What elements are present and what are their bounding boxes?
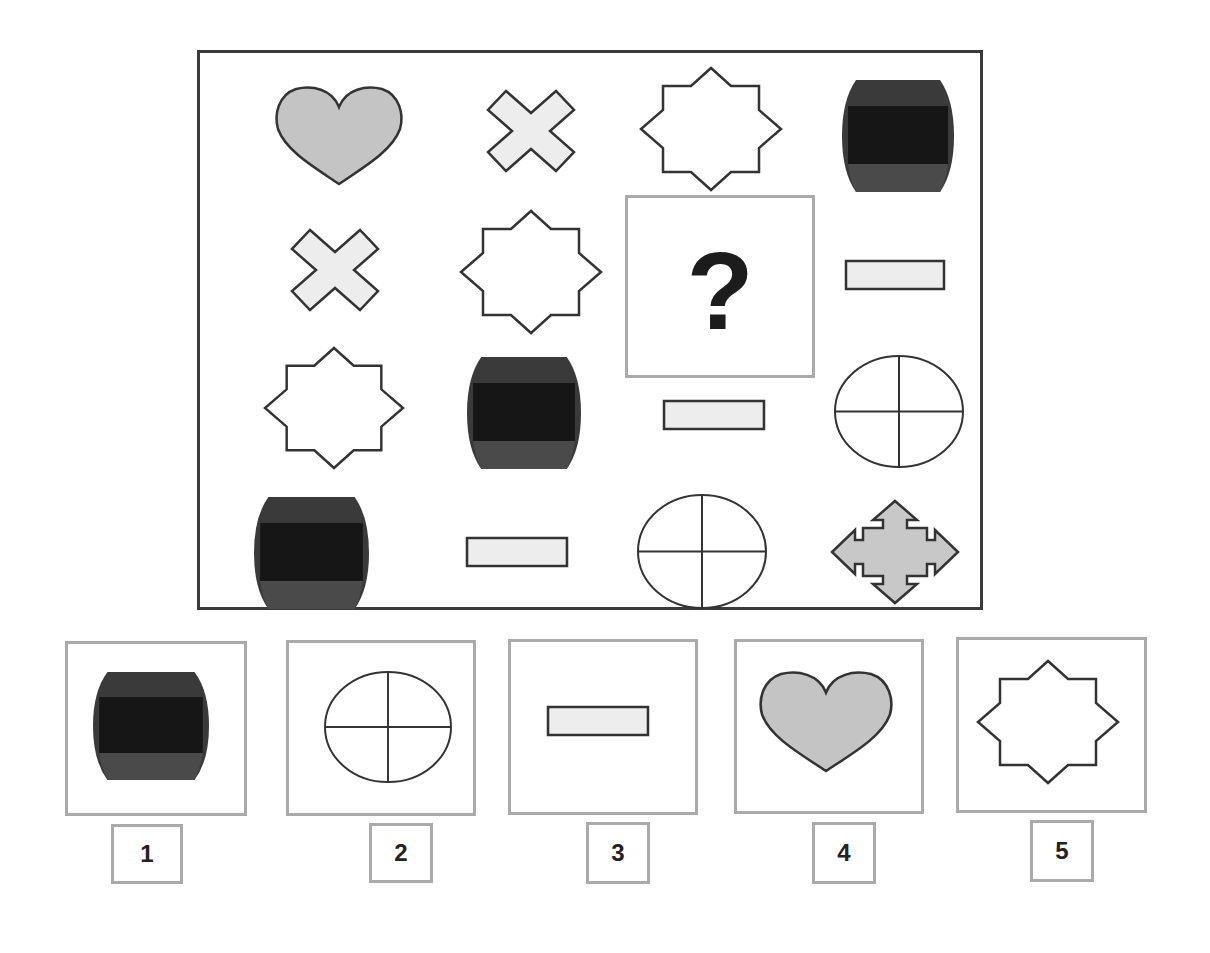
grid-cell-r4c2-rect-icon [466, 537, 568, 567]
grid-cell-r2c4-rect-icon [845, 260, 945, 290]
missing-cell-question: ? [625, 195, 815, 378]
grid-cell-r4c1-barrel-icon [254, 497, 369, 609]
grid-cell-r1c2-cross-icon [487, 91, 575, 171]
grid-cell-r4c4-arrows4-icon [831, 500, 959, 604]
option-1-barrel-icon [93, 672, 209, 780]
grid-cell-r2c2-star8-icon [461, 211, 601, 333]
option-2-circle4-icon [324, 671, 452, 783]
option-5-number-label[interactable]: 5 [1030, 820, 1094, 882]
option-4-number-label[interactable]: 4 [812, 822, 876, 884]
grid-cell-r1c3-star8-icon [641, 68, 781, 190]
grid-cell-r1c1-heart-icon [274, 85, 404, 185]
grid-cell-r3c3-rect-icon [663, 400, 765, 430]
option-5-star8-icon [978, 661, 1118, 783]
option-2-number-label[interactable]: 2 [369, 823, 433, 883]
grid-cell-r2c1-cross-icon [291, 230, 379, 310]
option-3-number-label[interactable]: 3 [586, 822, 650, 884]
grid-cell-r4c3-circle4-icon [637, 494, 767, 609]
option-1-number-label[interactable]: 1 [111, 824, 183, 884]
option-4-heart-icon [758, 670, 894, 772]
grid-cell-r3c1-star8-icon [265, 348, 403, 468]
grid-cell-r3c2-barrel-icon [467, 357, 581, 469]
option-3-rect-icon [547, 706, 649, 736]
question-mark: ? [628, 236, 812, 346]
grid-cell-r1c4-barrel-icon [842, 80, 954, 192]
grid-cell-r3c4-circle4-icon [834, 355, 964, 468]
